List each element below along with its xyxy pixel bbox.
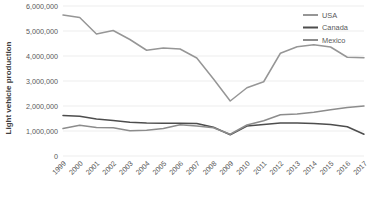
x-axis-tick-label: 2003 bbox=[117, 159, 135, 177]
x-axis-tick-label: 1999 bbox=[50, 159, 68, 177]
gridlines bbox=[63, 6, 364, 156]
y-axis-tick-label: 5,000,000 bbox=[26, 27, 58, 36]
legend-label-canada: Canada bbox=[322, 23, 349, 32]
legend-label-usa: USA bbox=[322, 11, 337, 20]
x-axis-tick-label: 2002 bbox=[100, 159, 118, 177]
x-axis-tick-label: 2017 bbox=[351, 159, 368, 177]
x-axis-tick-label: 2005 bbox=[151, 159, 169, 177]
x-axis-tick-label: 2006 bbox=[167, 159, 185, 177]
legend-label-mexico: Mexico bbox=[322, 36, 345, 45]
y-axis-tick-label: 2,000,000 bbox=[26, 102, 58, 111]
y-axis-tick-label: 6,000,000 bbox=[26, 2, 58, 11]
x-axis-tick-label: 2014 bbox=[301, 159, 319, 177]
x-axis-tick-label: 2007 bbox=[184, 159, 202, 177]
y-axis-tick-label: 4,000,000 bbox=[26, 52, 58, 61]
x-axis-tick-label: 2015 bbox=[318, 159, 336, 177]
x-axis-tick-label: 2011 bbox=[251, 159, 268, 176]
x-axis-tick-label: 2010 bbox=[234, 159, 252, 177]
y-axis-ticks: 01,000,0002,000,0003,000,0004,000,0005,0… bbox=[26, 2, 58, 161]
x-axis-tick-label: 2013 bbox=[284, 159, 302, 177]
x-axis-tick-label: 2009 bbox=[217, 159, 235, 177]
x-axis-tick-label: 2012 bbox=[268, 159, 286, 177]
y-axis-title: Light vehicle production bbox=[4, 41, 13, 134]
y-axis-tick-label: 1,000,000 bbox=[26, 127, 58, 136]
y-axis-tick-label: 0 bbox=[54, 152, 58, 161]
y-axis-title-label: Light vehicle production bbox=[4, 41, 13, 134]
series-line-canada bbox=[63, 116, 364, 135]
x-axis-tick-label: 2008 bbox=[201, 159, 219, 177]
chart-container: 01,000,0002,000,0003,000,0004,000,0005,0… bbox=[0, 0, 368, 202]
x-axis-ticks: 1999200020012002200320042005200620072008… bbox=[50, 159, 368, 177]
x-axis-tick-label: 2016 bbox=[335, 159, 353, 177]
chart-legend: USACanadaMexico bbox=[303, 11, 349, 45]
x-axis-tick-label: 2001 bbox=[84, 159, 102, 177]
line-chart: 01,000,0002,000,0003,000,0004,000,0005,0… bbox=[0, 0, 368, 202]
series-line-usa bbox=[63, 15, 364, 101]
data-series bbox=[63, 15, 364, 135]
x-axis-tick-label: 2004 bbox=[134, 159, 152, 177]
x-axis-tick-label: 2000 bbox=[67, 159, 85, 177]
y-axis-tick-label: 3,000,000 bbox=[26, 77, 58, 86]
